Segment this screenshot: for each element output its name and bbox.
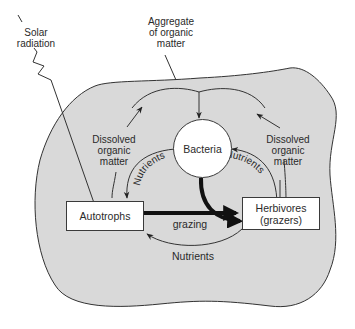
nutrients-bottom-label: Nutrients (165, 251, 221, 262)
grazers-label: (grazers) (260, 214, 302, 226)
domr-line-2: organic (260, 145, 316, 156)
dom-right-label: Dissolved organic matter (260, 134, 316, 167)
agg-line-3: matter (136, 38, 206, 49)
solar-line-2: radiation (12, 38, 60, 49)
agg-line-2: of organic (136, 27, 206, 38)
grazing-label: grazing (165, 219, 215, 230)
aggregate-leader-line (165, 55, 176, 80)
doml-line-2: organic (86, 145, 142, 156)
herbivores-label: Herbivores (256, 202, 307, 214)
aggregate-blob (35, 68, 336, 307)
aggregate-label: Aggregate of organic matter (136, 16, 206, 49)
diagram-canvas: Nutrients Nutrients Solar radiation Aggr… (0, 0, 355, 329)
autotrophs-label: Autotrophs (80, 210, 131, 222)
solar-line-1: Solar (12, 27, 60, 38)
solar-radiation-arrow (18, 15, 22, 22)
doml-line-3: matter (86, 156, 142, 167)
doml-line-1: Dissolved (86, 134, 142, 145)
dom-left-label: Dissolved organic matter (86, 134, 142, 167)
solar-radiation-label: Solar radiation (12, 27, 60, 49)
domr-line-3: matter (260, 156, 316, 167)
autotrophs-node: Autotrophs (66, 201, 144, 231)
bacteria-label: Bacteria (183, 143, 222, 155)
bacteria-node: Bacteria (173, 119, 232, 178)
agg-line-1: Aggregate (136, 16, 206, 27)
herbivores-node: Herbivores (grazers) (242, 197, 320, 230)
domr-line-1: Dissolved (260, 134, 316, 145)
